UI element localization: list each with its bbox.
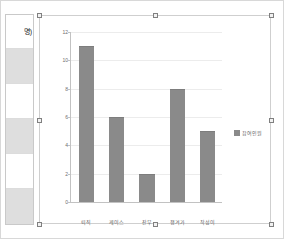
x-axis-tick-label: 퇴직 [71, 220, 101, 225]
bar[interactable] [109, 117, 124, 202]
handle-middle-right[interactable] [269, 118, 274, 123]
chart-legend[interactable]: 참여인원 [234, 130, 262, 136]
legend-swatch-icon [234, 130, 240, 136]
bar[interactable] [170, 89, 185, 202]
worksheet-cell[interactable]: 명) [6, 15, 33, 49]
x-axis-tick-label: 챙겨가 [162, 220, 192, 225]
worksheet-cell-text: 명) [24, 28, 32, 35]
bar-slot[interactable] [132, 32, 162, 202]
y-axis-tick-mark [68, 117, 70, 118]
y-axis-tick-mark [68, 60, 70, 61]
x-axis-tick-label: 작성이 [193, 220, 223, 225]
handle-top-right[interactable] [269, 13, 274, 18]
y-axis-tick-mark [68, 174, 70, 175]
y-axis-tick-labels: 024681012 [56, 32, 68, 202]
handle-bottom-right[interactable] [269, 222, 274, 227]
worksheet-cell[interactable] [6, 84, 33, 119]
handle-bottom-left[interactable] [37, 222, 42, 227]
y-axis-tick-mark [68, 89, 70, 90]
bar[interactable] [139, 174, 154, 202]
worksheet-cell[interactable] [6, 189, 33, 225]
chart-window: 명) 024681012 퇴직케이스잔무챙겨가작성이 [0, 0, 284, 239]
chart-object[interactable]: 024681012 퇴직케이스잔무챙겨가작성이 참여인원 [39, 15, 271, 224]
y-axis-tick-mark [68, 145, 70, 146]
y-axis-tick-mark [68, 202, 70, 203]
bar[interactable] [79, 46, 94, 202]
handle-middle-left[interactable] [37, 118, 42, 123]
bar-slot[interactable] [101, 32, 131, 202]
worksheet-cell[interactable] [6, 119, 33, 154]
x-axis-tick-label: 케이스 [101, 220, 131, 225]
bar-series[interactable]: 퇴직케이스잔무챙겨가작성이 [71, 32, 222, 202]
legend-label: 참여인원 [242, 131, 262, 136]
worksheet-cell[interactable] [6, 49, 33, 84]
y-axis-tick-mark [68, 32, 70, 33]
handle-top-left[interactable] [37, 13, 42, 18]
bar-slot[interactable] [71, 32, 101, 202]
chart-plot-frame: 024681012 퇴직케이스잔무챙겨가작성이 참여인원 [48, 18, 262, 221]
x-axis-line [70, 202, 222, 203]
handle-bottom-center[interactable] [153, 222, 158, 227]
bar-slot[interactable] [162, 32, 192, 202]
bar[interactable] [200, 131, 215, 202]
worksheet-cell[interactable] [6, 154, 33, 189]
bar-slot[interactable] [193, 32, 223, 202]
handle-top-center[interactable] [153, 13, 158, 18]
worksheet-column-strip[interactable]: 명) [5, 14, 34, 225]
